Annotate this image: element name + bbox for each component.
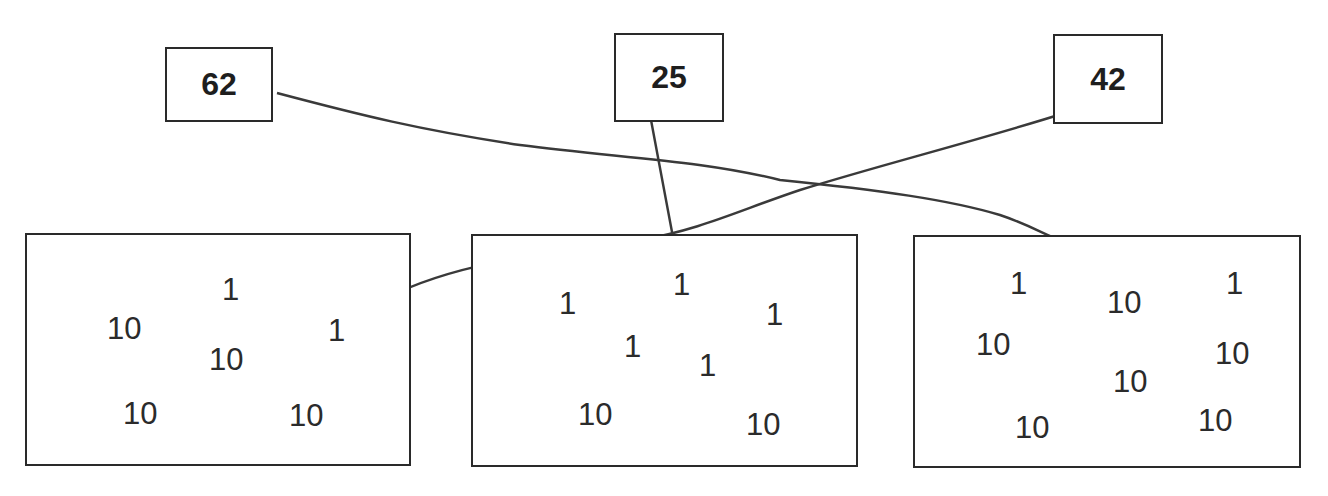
number-value: 10 xyxy=(976,329,1010,360)
connection-25 xyxy=(648,104,675,248)
number-value: 10 xyxy=(289,400,323,431)
number-value: 10 xyxy=(746,409,780,440)
number-value: 1 xyxy=(1226,268,1243,299)
target-box-42: 42 xyxy=(1053,34,1163,124)
number-value: 1 xyxy=(559,288,576,319)
number-value: 10 xyxy=(1198,405,1232,436)
number-value: 1 xyxy=(1010,268,1027,299)
number-value: 10 xyxy=(1215,338,1249,369)
number-value: 10 xyxy=(578,399,612,430)
number-value: 10 xyxy=(209,344,243,375)
number-value: 1 xyxy=(222,274,239,305)
number-group-1: 1101101010 xyxy=(25,233,411,466)
number-value: 10 xyxy=(123,398,157,429)
number-value: 10 xyxy=(1015,412,1049,443)
number-value: 1 xyxy=(328,315,345,346)
number-group-3: 11101010101010 xyxy=(913,235,1301,468)
number-value: 10 xyxy=(1113,366,1147,397)
number-value: 1 xyxy=(624,331,641,362)
number-value: 10 xyxy=(1107,287,1141,318)
number-value: 1 xyxy=(699,350,716,381)
target-box-25: 25 xyxy=(614,33,724,122)
number-value: 1 xyxy=(766,299,783,330)
number-group-2: 111111010 xyxy=(471,234,858,467)
number-value: 10 xyxy=(107,313,141,344)
number-value: 1 xyxy=(673,269,690,300)
target-box-62: 62 xyxy=(165,47,273,122)
